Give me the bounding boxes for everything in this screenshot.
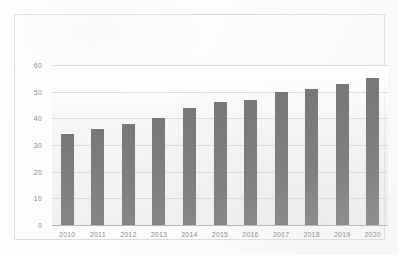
x-axis-tick-label: 2014 <box>181 231 197 238</box>
gridline-0 <box>52 225 388 226</box>
bar <box>244 100 257 225</box>
y-axis-tick-label: 20 <box>12 168 42 175</box>
y-axis-tick-label: 40 <box>12 115 42 122</box>
bar <box>336 84 349 225</box>
x-axis-tick-label: 2012 <box>120 231 136 238</box>
x-axis-tick-label: 2011 <box>90 231 106 238</box>
y-axis-tick-label: 10 <box>12 195 42 202</box>
gridline-60 <box>52 65 388 66</box>
x-axis-tick-label: 2010 <box>59 231 75 238</box>
x-axis-tick-label: 2017 <box>273 231 289 238</box>
chart-frame: 0102030405060 20102011201220132014201520… <box>14 14 385 240</box>
x-axis-tick-label: 2018 <box>303 231 319 238</box>
bar <box>61 134 74 225</box>
bar <box>305 89 318 225</box>
bar <box>183 108 196 225</box>
plot-area <box>52 65 388 225</box>
x-axis-tick-label: 2016 <box>242 231 258 238</box>
bar <box>366 78 379 225</box>
y-axis-tick-label: 50 <box>12 88 42 95</box>
y-axis-tick-label: 30 <box>12 142 42 149</box>
x-axis-tick-label: 2015 <box>212 231 228 238</box>
bar <box>122 124 135 225</box>
bar <box>152 118 165 225</box>
y-axis-tick-label: 0 <box>12 222 42 229</box>
bar <box>275 92 288 225</box>
x-axis-tick-label: 2019 <box>334 231 350 238</box>
bar <box>91 129 104 225</box>
bar <box>214 102 227 225</box>
y-axis-tick-label: 60 <box>12 62 42 69</box>
x-axis-tick-label: 2013 <box>151 231 167 238</box>
x-axis-tick-label: 2020 <box>365 231 381 238</box>
